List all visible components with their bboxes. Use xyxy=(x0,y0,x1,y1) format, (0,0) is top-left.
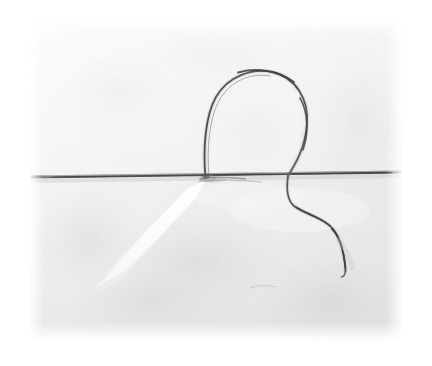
figure-root: Halftone-printed monochrome photograph o… xyxy=(0,0,432,366)
photograph-needle-and-thread: Halftone-printed monochrome photograph o… xyxy=(0,0,432,366)
photo-area xyxy=(30,20,406,342)
